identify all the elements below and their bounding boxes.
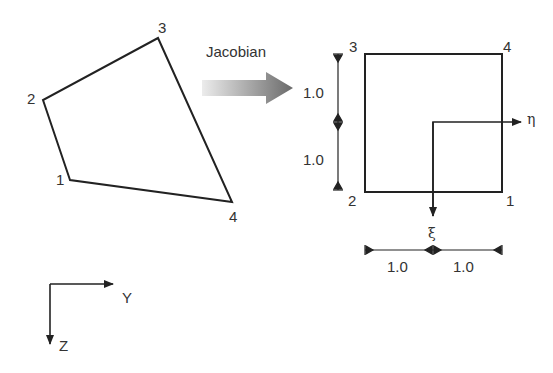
quadrilateral-outline xyxy=(43,38,232,202)
horizontal-dimension xyxy=(365,245,502,255)
ref-node-label-2: 2 xyxy=(348,192,356,209)
node-label-2: 2 xyxy=(27,90,35,107)
jacobian-mapping-diagram: 1 2 3 4 Jacobian 3 4 2 1 η ξ 1.0 1 xyxy=(0,0,553,373)
ref-node-label-4: 4 xyxy=(503,38,511,55)
global-axes: Y Z xyxy=(50,284,132,354)
y-axis-label: Y xyxy=(122,289,132,306)
dim-vertical-bottom: 1.0 xyxy=(303,151,324,168)
reference-element: 3 4 2 1 η ξ 1.0 1.0 xyxy=(303,38,535,275)
node-label-4: 4 xyxy=(229,208,237,225)
gradient-arrow-icon xyxy=(202,72,293,104)
dim-horizontal-right: 1.0 xyxy=(453,258,474,275)
z-axis-label: Z xyxy=(59,337,68,354)
jacobian-transform: Jacobian xyxy=(202,43,293,104)
vertical-dimension xyxy=(333,54,343,190)
dim-horizontal-left: 1.0 xyxy=(387,258,408,275)
ref-node-label-3: 3 xyxy=(349,38,357,55)
node-label-3: 3 xyxy=(158,19,166,36)
xi-label: ξ xyxy=(428,225,436,241)
jacobian-label: Jacobian xyxy=(206,43,266,60)
node-label-1: 1 xyxy=(56,171,64,188)
dim-vertical-top: 1.0 xyxy=(303,84,324,101)
eta-label: η xyxy=(527,111,535,127)
ref-node-label-1: 1 xyxy=(506,192,514,209)
